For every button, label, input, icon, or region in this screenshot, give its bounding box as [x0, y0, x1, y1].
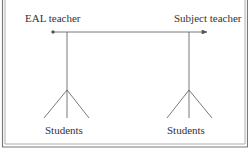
- eal-teacher-tree: [44, 32, 89, 118]
- students-right-label: Students: [167, 125, 205, 136]
- dot-endpoint-icon: [52, 31, 55, 34]
- arrowhead-right-icon: [202, 30, 207, 34]
- eal-teacher-label: EAL teacher: [25, 13, 80, 24]
- subject-teacher-label: Subject teacher: [174, 13, 242, 24]
- students-left-label: Students: [45, 125, 83, 136]
- subject-teacher-tree: [167, 32, 212, 118]
- teacher-connector: [52, 30, 207, 34]
- diagram-canvas: EAL teacher Subject teacher Students Stu…: [0, 0, 248, 150]
